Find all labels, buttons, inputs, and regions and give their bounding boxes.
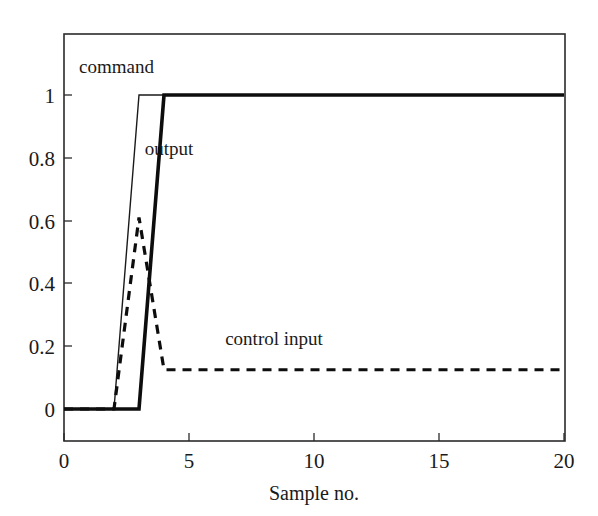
x-tick-label-1: 5 <box>184 449 195 473</box>
x-tick-label-2: 10 <box>304 449 325 473</box>
y-tick-label-3: 0.6 <box>29 210 55 234</box>
x-axis-title: Sample no. <box>269 482 359 505</box>
annotation-control-input: control input <box>225 328 323 349</box>
annotation-command: command <box>79 56 154 77</box>
x-tick-label-0: 0 <box>59 449 70 473</box>
x-tick-label-4: 20 <box>554 449 575 473</box>
y-tick-label-4: 0.8 <box>29 147 55 171</box>
figure-background <box>0 0 598 516</box>
y-tick-label-1: 0.2 <box>29 335 55 359</box>
annotation-output: output <box>145 138 194 159</box>
x-tick-label-3: 15 <box>429 449 450 473</box>
chart-figure: 0 0.2 0.4 0.6 0.8 1 0 5 10 15 20 Sample … <box>0 0 598 516</box>
y-tick-label-2: 0.4 <box>29 272 56 296</box>
y-tick-label-0: 0 <box>45 398 56 422</box>
y-tick-label-5: 1 <box>45 84 56 108</box>
